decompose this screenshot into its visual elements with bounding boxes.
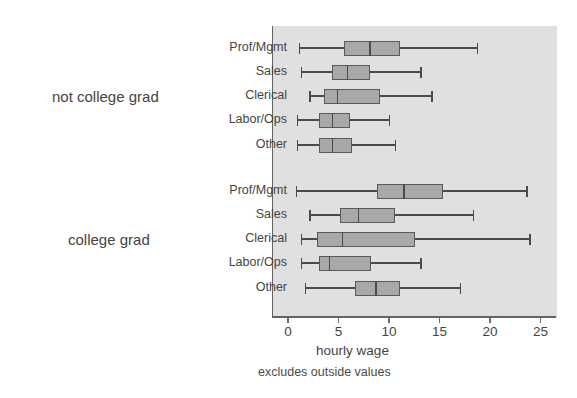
category-label-labor-ops: Labor/Ops <box>229 113 287 125</box>
plot-area <box>272 26 557 318</box>
whisker-line-lower <box>301 238 317 239</box>
box-iqr <box>332 65 369 80</box>
median-line <box>332 113 333 128</box>
median-line <box>403 184 404 199</box>
x-tick-label-20: 20 <box>482 324 497 339</box>
whisker-cap-upper <box>526 186 527 197</box>
whisker-line-upper <box>400 47 477 48</box>
whisker-line-upper <box>415 238 529 239</box>
x-tick-25 <box>540 317 541 323</box>
category-label-sales: Sales <box>256 65 287 77</box>
x-tick-label-10: 10 <box>381 324 396 339</box>
box-iqr <box>340 208 396 223</box>
whisker-line-lower <box>297 144 319 145</box>
whisker-cap-upper <box>431 91 432 102</box>
whisker-line-upper <box>443 190 527 191</box>
whisker-cap-upper <box>420 67 421 78</box>
whisker-cap-lower <box>305 283 306 294</box>
x-tick-label-15: 15 <box>432 324 447 339</box>
whisker-line-upper <box>395 214 473 215</box>
category-label-prof-mgmt: Prof/Mgmt <box>229 184 287 196</box>
x-axis-line <box>272 316 556 318</box>
x-tick-label-5: 5 <box>335 324 343 339</box>
whisker-line-upper <box>352 144 395 145</box>
whisker-cap-lower <box>301 234 302 245</box>
box-iqr <box>317 232 415 247</box>
whisker-line-lower <box>299 47 343 48</box>
whisker-line-upper <box>350 119 389 120</box>
whisker-cap-upper <box>473 210 474 221</box>
group-label-not-college-grad: not college grad <box>52 88 159 105</box>
category-label-other: Other <box>256 138 287 150</box>
boxplot-figure: 0510152025 Prof/MgmtSalesClericalLabor/O… <box>0 0 577 398</box>
box-iqr <box>355 281 400 296</box>
whisker-line-upper <box>380 95 432 96</box>
category-label-clerical: Clerical <box>245 89 287 101</box>
median-line <box>337 89 338 104</box>
chart-note: excludes outside values <box>258 365 391 379</box>
whisker-line-lower <box>309 95 324 96</box>
whisker-cap-lower <box>299 43 300 54</box>
whisker-cap-lower <box>301 258 302 269</box>
median-line <box>369 41 370 56</box>
x-tick-15 <box>439 317 440 323</box>
whisker-cap-lower <box>301 67 302 78</box>
median-line <box>375 281 376 296</box>
category-label-clerical: Clerical <box>245 232 287 244</box>
x-axis-label: hourly wage <box>0 343 577 358</box>
median-line <box>358 208 359 223</box>
median-line <box>329 256 330 271</box>
whisker-line-upper <box>400 287 460 288</box>
box-iqr <box>319 113 349 128</box>
whisker-cap-lower <box>297 115 298 126</box>
whisker-cap-upper <box>529 234 530 245</box>
box-iqr <box>324 89 380 104</box>
whisker-line-lower <box>301 71 332 72</box>
median-line <box>332 138 333 153</box>
whisker-line-lower <box>301 262 319 263</box>
category-label-labor-ops: Labor/Ops <box>229 256 287 268</box>
whisker-line-lower <box>297 119 319 120</box>
box-iqr <box>344 41 401 56</box>
x-tick-label-25: 25 <box>533 324 548 339</box>
whisker-line-upper <box>370 71 421 72</box>
whisker-line-lower <box>296 190 377 191</box>
x-tick-10 <box>388 317 389 323</box>
whisker-line-lower <box>305 287 354 288</box>
whisker-cap-upper <box>420 258 421 269</box>
x-tick-label-0: 0 <box>284 324 292 339</box>
median-line <box>342 232 343 247</box>
whisker-line-lower <box>309 214 339 215</box>
box-iqr <box>377 184 443 199</box>
category-label-sales: Sales <box>256 208 287 220</box>
x-tick-0 <box>287 317 288 323</box>
whisker-cap-lower <box>297 140 298 151</box>
box-iqr <box>319 256 371 271</box>
whisker-cap-upper <box>460 283 461 294</box>
whisker-cap-lower <box>309 210 310 221</box>
whisker-cap-upper <box>395 140 396 151</box>
whisker-cap-lower <box>296 186 297 197</box>
whisker-line-upper <box>371 262 420 263</box>
group-label-college-grad: college grad <box>68 231 150 248</box>
category-label-prof-mgmt: Prof/Mgmt <box>229 41 287 53</box>
x-tick-5 <box>338 317 339 323</box>
x-tick-20 <box>489 317 490 323</box>
category-label-other: Other <box>256 281 287 293</box>
whisker-cap-lower <box>309 91 310 102</box>
median-line <box>347 65 348 80</box>
whisker-cap-upper <box>477 43 478 54</box>
box-iqr <box>319 138 351 153</box>
whisker-cap-upper <box>389 115 390 126</box>
